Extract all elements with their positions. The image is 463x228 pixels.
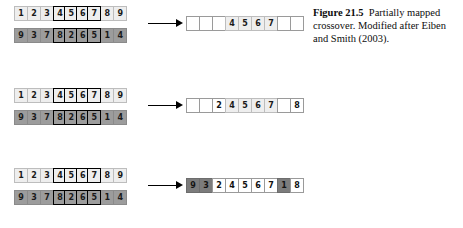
gene-cell: 8 [100, 88, 114, 103]
parent-pair: 123456789 937826514 [14, 168, 126, 205]
gene-cell: 4 [225, 98, 239, 113]
gene-cell: 3 [40, 88, 54, 103]
gene-cell: 9 [186, 178, 200, 193]
gene-cell: 3 [27, 28, 41, 43]
crossover-stage-2: 123456789 937826514 245678 [0, 88, 300, 134]
gene-cell: 4 [113, 110, 127, 125]
gene-cell: 8 [100, 6, 114, 21]
gene-cell: 1 [100, 110, 114, 125]
gene-cell: 4 [113, 28, 127, 43]
gene-cell: 1 [14, 88, 28, 103]
crossover-stage-1: 123456789 937826514 4567 [0, 6, 300, 52]
gene-cell: 9 [113, 168, 127, 183]
gene-cell-empty [186, 16, 200, 31]
gene-cell: 5 [238, 16, 252, 31]
parent-2-strip: 937826514 [14, 28, 126, 43]
offspring-wrapper: 4567 [186, 16, 303, 31]
gene-cell: 5 [238, 178, 252, 193]
gene-cell: 7 [40, 28, 54, 43]
gene-cell: 2 [27, 168, 41, 183]
gene-cell: 2 [27, 88, 41, 103]
gene-cell: 1 [277, 178, 291, 193]
gene-cell: 3 [27, 190, 41, 205]
gene-cell: 2 [212, 98, 226, 113]
arrow-shaft [148, 105, 177, 106]
figure-caption-label: Figure 21.5 [313, 7, 364, 18]
arrow-head [176, 181, 183, 189]
gene-cell-empty [290, 16, 304, 31]
gene-cell: 3 [199, 178, 213, 193]
gene-cell: 3 [27, 110, 41, 125]
figure-partially-mapped-crossover: 123456789 937826514 4567 123456789 93782… [0, 0, 463, 228]
gene-cell: 1 [100, 190, 114, 205]
parent-1-strip: 123456789 [14, 6, 126, 21]
gene-cell: 9 [14, 190, 28, 205]
gene-cell: 5 [87, 110, 101, 125]
gene-cell: 9 [113, 6, 127, 21]
gene-cell-empty [277, 16, 291, 31]
offspring-strip: 245678 [186, 98, 303, 113]
gene-cell: 7 [87, 168, 101, 183]
arrow-shaft [148, 185, 177, 186]
gene-cell: 3 [40, 168, 54, 183]
gene-cell: 7 [87, 88, 101, 103]
parent-1-strip: 123456789 [14, 88, 126, 103]
parent-1-strip: 123456789 [14, 168, 126, 183]
gene-cell-empty [199, 16, 213, 31]
gene-cell-empty [186, 98, 200, 113]
parent-pair: 123456789 937826514 [14, 88, 126, 125]
parent-2-strip: 937826514 [14, 110, 126, 125]
gene-cell-empty [199, 98, 213, 113]
gene-cell: 9 [113, 88, 127, 103]
gene-cell: 6 [251, 16, 265, 31]
arrow-icon [148, 19, 184, 29]
parent-2-strip: 937826514 [14, 190, 126, 205]
gene-cell: 8 [290, 98, 304, 113]
offspring-strip: 932456718 [186, 178, 303, 193]
gene-cell: 1 [14, 6, 28, 21]
arrow-icon [148, 181, 184, 191]
gene-cell: 9 [14, 28, 28, 43]
arrow-icon [148, 101, 184, 111]
figure-caption: Figure 21.5 Partially mapped crossover. … [313, 6, 459, 46]
gene-cell-empty [277, 98, 291, 113]
gene-cell: 7 [264, 16, 278, 31]
gene-cell: 2 [27, 6, 41, 21]
gene-cell: 4 [225, 178, 239, 193]
gene-cell: 8 [290, 178, 304, 193]
gene-cell-empty [212, 16, 226, 31]
arrow-head [176, 19, 183, 27]
gene-cell: 6 [251, 98, 265, 113]
gene-cell: 8 [100, 168, 114, 183]
gene-cell: 5 [238, 98, 252, 113]
gene-cell: 7 [264, 178, 278, 193]
offspring-wrapper: 245678 [186, 98, 303, 113]
gene-cell: 7 [40, 110, 54, 125]
gene-cell: 5 [87, 28, 101, 43]
crossover-stage-3: 123456789 937826514 932456718 [0, 168, 300, 214]
gene-cell: 4 [225, 16, 239, 31]
parent-pair: 123456789 937826514 [14, 6, 126, 43]
gene-cell: 5 [87, 190, 101, 205]
arrow-shaft [148, 23, 177, 24]
arrow-head [176, 101, 183, 109]
gene-cell: 7 [87, 6, 101, 21]
offspring-wrapper: 932456718 [186, 178, 303, 193]
offspring-strip: 4567 [186, 16, 303, 31]
gene-cell: 4 [113, 190, 127, 205]
gene-cell: 1 [100, 28, 114, 43]
gene-cell: 1 [14, 168, 28, 183]
gene-cell: 2 [212, 178, 226, 193]
gene-cell: 7 [264, 98, 278, 113]
gene-cell: 6 [251, 178, 265, 193]
gene-cell: 3 [40, 6, 54, 21]
gene-cell: 7 [40, 190, 54, 205]
gene-cell: 9 [14, 110, 28, 125]
